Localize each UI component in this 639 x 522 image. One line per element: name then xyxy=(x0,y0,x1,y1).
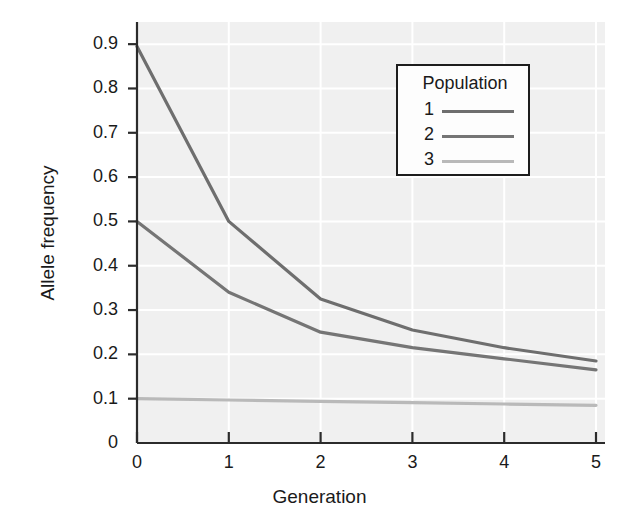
x-tick-label: 2 xyxy=(301,452,341,473)
legend-title: Population xyxy=(398,73,532,94)
y-tick-label: 0.8 xyxy=(62,77,118,98)
y-axis-title: Allele frequency xyxy=(37,123,59,343)
y-tick-label: 0.7 xyxy=(62,122,118,143)
y-tick-label: 0.2 xyxy=(62,343,118,364)
x-tick-label: 4 xyxy=(484,452,524,473)
legend-entry-population-1: 1 xyxy=(408,99,526,121)
x-tick-label: 3 xyxy=(392,452,432,473)
plot-background xyxy=(137,22,605,443)
legend-entry-population-3: 3 xyxy=(408,149,526,171)
x-tick-label: 5 xyxy=(576,452,616,473)
legend-line-swatch xyxy=(442,160,514,163)
legend-entry-label: 1 xyxy=(408,99,434,120)
x-tick-label: 1 xyxy=(209,452,249,473)
legend: Population 123 xyxy=(396,64,530,176)
allele-frequency-line-chart: 00.10.20.30.40.50.60.70.80.9 012345 Alle… xyxy=(0,0,639,522)
y-tick-label: 0.9 xyxy=(62,33,118,54)
legend-entry-population-2: 2 xyxy=(408,124,526,146)
y-tick-label: 0.3 xyxy=(62,299,118,320)
legend-line-swatch xyxy=(442,110,514,113)
y-tick-label: 0.4 xyxy=(62,255,118,276)
y-tick-label: 0.5 xyxy=(62,210,118,231)
y-tick-label: 0.6 xyxy=(62,166,118,187)
x-tick-label: 0 xyxy=(117,452,157,473)
x-axis-title: Generation xyxy=(0,486,639,508)
y-tick-label: 0 xyxy=(62,432,118,453)
legend-entry-label: 3 xyxy=(408,149,434,170)
y-tick-label: 0.1 xyxy=(62,388,118,409)
legend-entry-label: 2 xyxy=(408,124,434,145)
legend-line-swatch xyxy=(442,135,514,138)
